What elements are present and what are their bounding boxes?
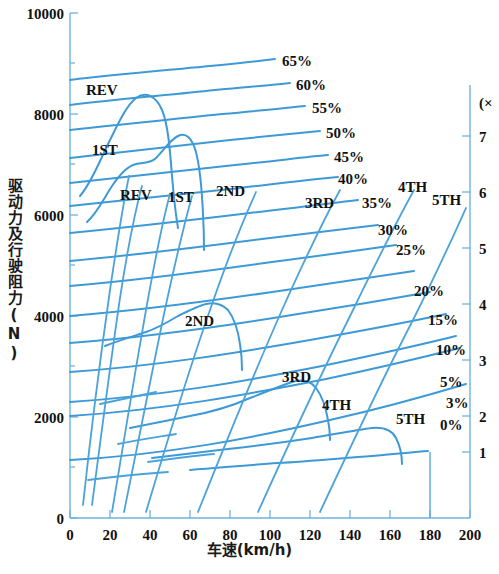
label-line-1st: 1ST	[168, 189, 194, 205]
label-line-4th: 4TH	[398, 179, 428, 195]
y-tick-0: 0	[57, 511, 65, 527]
label-gradient-20: 20%	[414, 283, 444, 299]
resistance-curve-10	[70, 314, 446, 372]
right-tick-7: 7	[479, 129, 487, 145]
right-tick-3: 3	[479, 353, 487, 369]
resistance-curve-65	[70, 59, 275, 80]
right-tick-5: 5	[479, 241, 487, 257]
label-force-4th: 4TH	[322, 397, 352, 413]
right-axis-title: (×	[479, 95, 493, 112]
label-gradient-5: 5%	[440, 374, 463, 390]
label-gradient-10: 10%	[436, 342, 466, 358]
y-axis-left-ticks	[70, 13, 78, 518]
label-force-5th: 5TH	[396, 411, 426, 427]
driving-force-curve-2nd-1	[105, 303, 242, 370]
resistance-curve-40	[70, 177, 338, 206]
label-gradient-0: 0%	[440, 417, 463, 433]
x-axis-title: 车速(km/h)	[0, 538, 499, 559]
label-gradient-60: 60%	[296, 77, 326, 93]
resistance-curve-3	[70, 348, 460, 416]
label-force-rev: REV	[86, 82, 118, 98]
right-tick-6: 6	[479, 185, 487, 201]
label-gradient-45: 45%	[334, 149, 364, 165]
label-force-3rd: 3RD	[282, 369, 311, 385]
y-axis-title: 驱动力及行驶阻力(N)	[2, 178, 24, 363]
resistance-curve-55	[70, 106, 305, 130]
x-axis-ticks	[70, 510, 470, 518]
driving-force-curve-4th-1	[152, 428, 402, 464]
right-tick-1: 1	[479, 445, 487, 461]
y-axis-left-labels: 10000 8000 6000 4000 2000 0	[27, 6, 65, 527]
y-tick-6000: 6000	[34, 208, 64, 224]
label-gradient-15: 15%	[428, 312, 458, 328]
chart-figure: 驱动力及行驶阻力(N) 车速(km/h) 10000 8000 6000	[0, 0, 499, 574]
right-tick-2: 2	[479, 409, 487, 425]
y-tick-10000: 10000	[27, 6, 65, 22]
label-force-2nd: 2ND	[185, 313, 214, 329]
resistance-curves	[70, 59, 466, 460]
label-line-5th: 5TH	[432, 192, 462, 208]
label-gradient-65: 65%	[282, 53, 312, 69]
chart-svg: 10000 8000 6000 4000 2000 0 0 20 40 60	[0, 0, 499, 574]
y-tick-2000: 2000	[34, 410, 64, 426]
label-line-rev: REV	[120, 187, 152, 203]
resistance-curve-15	[70, 292, 430, 343]
y-tick-4000: 4000	[34, 309, 64, 325]
label-gradient-25: 25%	[396, 242, 426, 258]
driving-force-curve-rev-1	[80, 95, 178, 228]
resistance-curve-30	[70, 225, 378, 261]
label-line-3rd: 3RD	[305, 195, 334, 211]
label-gradient-35: 35%	[362, 195, 392, 211]
auxiliary-segments	[88, 392, 214, 480]
label-line-2nd: 2ND	[216, 183, 245, 199]
right-tick-4: 4	[479, 297, 487, 313]
label-gradient-55: 55%	[312, 100, 342, 116]
y-tick-8000: 8000	[34, 107, 64, 123]
y-axis-right-labels: 7 6 5 4 3 2 1 (×	[479, 95, 493, 461]
label-gradient-50: 50%	[326, 125, 356, 141]
label-gradient-30: 30%	[378, 222, 408, 238]
resistance-curve-25	[70, 245, 396, 286]
label-force-1st: 1ST	[92, 142, 118, 158]
label-gradient-3: 3%	[446, 395, 469, 411]
driving-force-curve-5th-1	[190, 451, 428, 470]
label-gradient-40: 40%	[338, 171, 368, 187]
